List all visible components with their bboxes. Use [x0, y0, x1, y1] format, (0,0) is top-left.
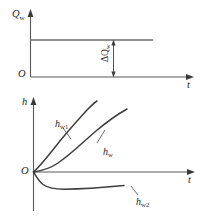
head-x-axis-label: t [188, 174, 192, 185]
flow-rate-panel: Qw t O ΔQw [12, 8, 194, 90]
flow-rate-y-axis-arrowhead [28, 9, 34, 17]
curve-label-hw2-sub: w2 [141, 201, 150, 208]
head-response-panel: h t O hw1 hw hw2 [21, 96, 195, 211]
flow-rate-y-axis-label-sub: w [20, 14, 26, 22]
delta-annotation-sub: w [104, 44, 111, 49]
curve-label-hw1: hw1 [55, 118, 68, 130]
delta-glyph: ΔQ [100, 49, 110, 62]
flow-rate-y-axis-label: Qw [12, 8, 26, 22]
curve-hw1 [34, 101, 98, 172]
delta-annotation-label: ΔQw [100, 44, 111, 62]
head-origin-label: O [21, 165, 29, 176]
curve-hw2 [34, 172, 125, 189]
flow-rate-origin-label: O [18, 68, 26, 79]
flow-rate-x-axis-label: t [187, 79, 191, 90]
curve-label-hw-sub: w [108, 151, 113, 158]
leader-line-hw [97, 130, 105, 143]
figure-canvas: Qw t O ΔQw [0, 0, 209, 217]
curve-label-hw2: hw2 [136, 196, 150, 208]
head-y-axis-arrowhead [31, 97, 37, 105]
delta-annotation-group: ΔQw [100, 44, 111, 62]
head-y-axis-label: h [22, 96, 27, 107]
curve-label-hw1-sub: w1 [60, 123, 68, 130]
technical-figure: Qw t O ΔQw [0, 0, 209, 217]
leader-line-hw2 [131, 186, 138, 195]
curve-label-hw: hw [103, 146, 113, 158]
